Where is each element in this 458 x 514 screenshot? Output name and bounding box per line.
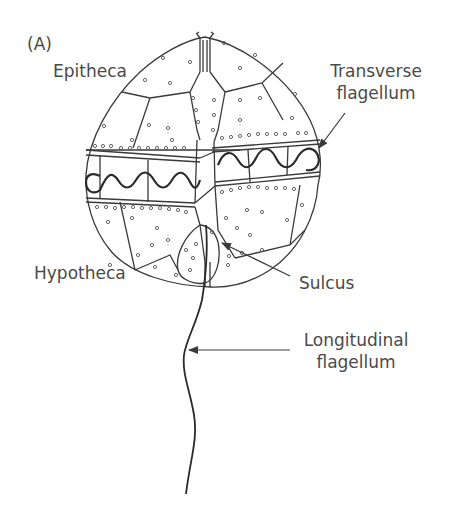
transverse-arrow (319, 113, 345, 148)
transverse-flagellum (86, 149, 319, 193)
longitudinal-flagellum (184, 225, 207, 494)
dinoflagellate-diagram: (A) Epitheca Transverse flagellum Hypoth… (0, 0, 458, 514)
cingulum-upper (86, 140, 320, 162)
label-longitudinal-flagellum: Longitudinal flagellum (300, 329, 412, 373)
panel-label: (A) (27, 33, 52, 55)
label-transverse-line1: Transverse (326, 60, 426, 82)
apical-pore (197, 34, 213, 72)
label-transverse-flagellum: Transverse flagellum (326, 60, 426, 104)
label-longitudinal-line1: Longitudinal (300, 329, 412, 351)
label-epitheca: Epitheca (53, 60, 127, 82)
label-sulcus: Sulcus (299, 272, 354, 294)
label-transverse-line2: flagellum (326, 82, 426, 104)
label-hypotheca: Hypotheca (34, 262, 126, 284)
label-longitudinal-line2: flagellum (300, 351, 412, 373)
